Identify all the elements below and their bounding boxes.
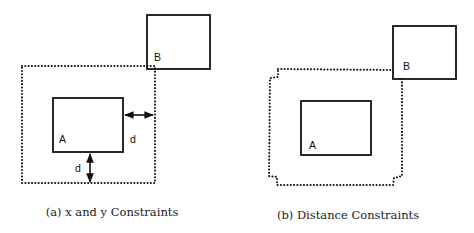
panel-b-constraint-region [269, 69, 402, 185]
panel-b-caption: (b) Distance Constraints [277, 208, 419, 222]
panel-a-vertical-distance-label: d [75, 162, 81, 174]
panel-a-horizontal-distance-label: d [130, 133, 136, 145]
constraints-figure: B A d d (a) x and y Constraints B A (b) … [0, 0, 474, 233]
panel-a-constraint-region [22, 66, 155, 183]
panel-a-box-b-label: B [154, 51, 161, 63]
panel-a-box-a-label: A [59, 133, 66, 145]
panel-b-box-b-label: B [403, 60, 410, 72]
panel-a-caption: (a) x and y Constraints [46, 205, 179, 219]
panel-b: B A (b) Distance Constraints [269, 26, 456, 222]
panel-a: B A d d (a) x and y Constraints [22, 15, 210, 219]
panel-b-box-a-label: A [309, 139, 316, 151]
